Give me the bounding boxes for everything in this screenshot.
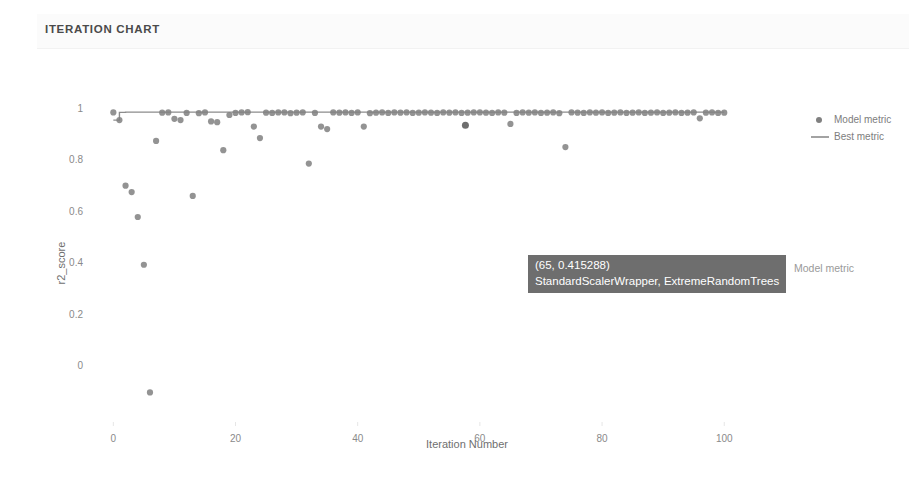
data-point[interactable] [171,116,177,122]
data-point[interactable] [477,109,483,115]
data-point[interactable] [159,110,165,116]
data-point[interactable] [177,117,183,123]
data-point[interactable] [446,110,452,116]
data-point[interactable] [452,109,458,115]
data-point[interactable] [129,189,135,195]
data-point[interactable] [263,110,269,116]
data-point[interactable] [672,109,678,115]
data-point[interactable] [416,110,422,116]
data-point[interactable] [153,138,159,144]
data-point[interactable] [391,109,397,115]
data-point[interactable] [318,123,324,129]
model-metric-points[interactable] [110,109,727,396]
data-point[interactable] [220,147,226,153]
data-point[interactable] [196,110,202,116]
data-point[interactable] [623,110,629,116]
data-point[interactable] [666,110,672,116]
data-point[interactable] [703,110,709,116]
data-point[interactable] [422,109,428,115]
data-point[interactable] [660,110,666,116]
data-point[interactable] [232,110,238,116]
data-point[interactable] [122,183,128,189]
data-point[interactable] [684,110,690,116]
data-point[interactable] [636,109,642,115]
chart-legend[interactable]: Model metric Best metric [811,114,891,142]
data-point[interactable] [397,110,403,116]
data-point[interactable] [324,126,330,132]
data-point[interactable] [214,119,220,125]
data-point[interactable] [611,110,617,116]
data-point[interactable] [385,110,391,116]
data-point[interactable] [513,110,519,116]
data-point[interactable] [184,110,190,116]
data-point[interactable] [715,110,721,116]
data-point[interactable] [294,110,300,116]
data-point[interactable] [501,110,507,116]
data-point[interactable] [507,121,513,127]
data-point[interactable] [403,109,409,115]
data-point[interactable] [654,109,660,115]
data-point[interactable] [355,109,361,115]
legend-item-best-metric[interactable]: Best metric [834,131,884,142]
data-point[interactable] [544,110,550,116]
data-point[interactable] [165,109,171,115]
data-point[interactable] [465,110,471,116]
data-point[interactable] [568,109,574,115]
data-point[interactable] [361,123,367,129]
data-point[interactable] [373,110,379,116]
data-point[interactable] [348,110,354,116]
data-point[interactable] [245,109,251,115]
data-point[interactable] [116,117,122,123]
data-point[interactable] [379,109,385,115]
data-point[interactable] [495,109,501,115]
data-point[interactable] [306,160,312,166]
data-point[interactable] [330,109,336,115]
data-point[interactable] [312,110,318,116]
data-point[interactable] [367,110,373,116]
data-point[interactable] [721,110,727,116]
data-point[interactable] [648,110,654,116]
data-point[interactable] [599,109,605,115]
data-point[interactable] [257,135,263,141]
chart-plot-area[interactable]: 00.20.40.60.81 020406080100 Iteration Nu… [37,48,909,476]
data-point[interactable] [300,109,306,115]
data-point[interactable] [226,112,232,118]
data-point[interactable] [605,110,611,116]
data-point[interactable] [208,118,214,124]
data-point[interactable] [135,214,141,220]
data-point[interactable] [556,110,562,116]
data-point[interactable] [697,115,703,121]
data-point[interactable] [575,110,581,116]
data-point[interactable] [483,110,489,116]
data-point[interactable] [269,110,275,116]
data-point[interactable] [562,144,568,150]
data-point[interactable] [410,110,416,116]
data-point[interactable] [538,110,544,116]
data-point[interactable] [617,109,623,115]
data-point[interactable] [532,109,538,115]
legend-item-model-metric[interactable]: Model metric [834,114,891,125]
data-point[interactable] [489,110,495,116]
data-point[interactable] [110,109,116,115]
data-point[interactable] [581,110,587,116]
data-point[interactable] [630,110,636,116]
data-point[interactable] [642,110,648,116]
data-point[interactable] [202,109,208,115]
data-point[interactable] [678,110,684,116]
data-point[interactable] [141,262,147,268]
data-point[interactable] [239,109,245,115]
data-point[interactable] [190,193,196,199]
data-point[interactable] [691,109,697,115]
data-point[interactable] [520,109,526,115]
data-point[interactable] [458,110,464,116]
data-point[interactable] [434,110,440,116]
data-point[interactable] [251,123,257,129]
data-point[interactable] [147,389,153,395]
data-point[interactable] [526,110,532,116]
data-point[interactable] [471,109,477,115]
data-point[interactable] [587,109,593,115]
data-point[interactable] [342,109,348,115]
data-point[interactable] [440,109,446,115]
data-point[interactable] [287,110,293,116]
data-point[interactable] [593,110,599,116]
